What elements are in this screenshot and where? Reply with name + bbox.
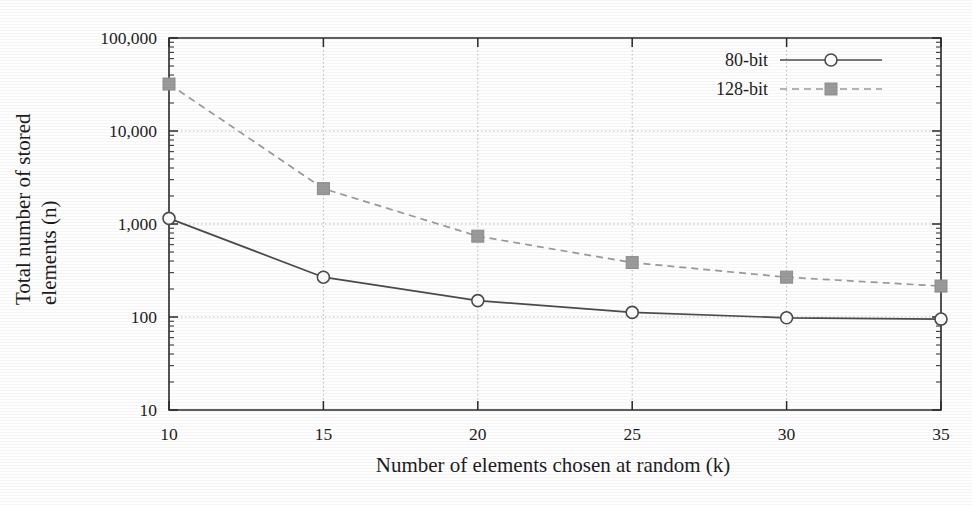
data-point-marker [472, 230, 484, 242]
y-tick-label: 10,000 [109, 121, 157, 141]
data-point-marker [163, 78, 175, 90]
figure-container: 101001,00010,000100,000 101520253035 80-… [0, 0, 972, 505]
data-point-marker [781, 312, 793, 324]
data-point-marker [317, 271, 329, 283]
data-point-marker [626, 257, 638, 269]
y-tick-label: 100 [131, 307, 158, 327]
data-point-marker [472, 295, 484, 307]
series-line-128-bit [169, 84, 941, 286]
data-point-marker [935, 280, 947, 292]
data-point-marker [626, 306, 638, 318]
y-tick-label: 10 [140, 400, 158, 420]
data-point-marker [781, 271, 793, 283]
x-tick-label: 10 [160, 424, 178, 444]
x-tick-label: 25 [623, 424, 641, 444]
y-axis-label-line2: elements (n) [37, 201, 61, 305]
y-tick-label: 100,000 [100, 28, 157, 48]
chart-legend: 80-bit128-bit [716, 50, 882, 99]
data-point-marker [317, 183, 329, 195]
legend-marker [825, 54, 837, 66]
data-series-group [163, 78, 947, 325]
log-line-chart: 101001,00010,000100,000 101520253035 80-… [0, 0, 972, 505]
series-line-80-bit [169, 218, 941, 319]
y-axis-label-line1: Total number of stored [11, 113, 35, 305]
x-tick-label: 35 [932, 424, 950, 444]
x-tick-label: 30 [778, 424, 796, 444]
x-axis-label: Number of elements chosen at random (k) [376, 453, 731, 477]
legend-label-80-bit: 80-bit [725, 50, 768, 70]
x-tick-label: 15 [315, 424, 333, 444]
legend-marker [825, 83, 837, 95]
x-tick-label: 20 [469, 424, 487, 444]
y-tick-labels: 101001,00010,000100,000 [100, 28, 157, 420]
data-point-marker [163, 212, 175, 224]
y-tick-label: 1,000 [118, 214, 158, 234]
data-point-marker [935, 313, 947, 325]
legend-label-128-bit: 128-bit [716, 79, 768, 99]
x-tick-labels: 101520253035 [160, 424, 950, 444]
